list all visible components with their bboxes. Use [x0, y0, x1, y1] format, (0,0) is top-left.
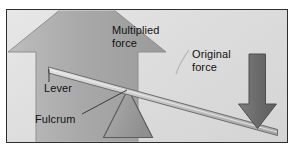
- diagram-screenshot: Multiplied force Original force Lever Fu…: [0, 0, 296, 156]
- original-force-leader-line: [176, 50, 189, 74]
- label-lever: Lever: [44, 82, 72, 95]
- original-force-arrow: [239, 54, 277, 129]
- label-fulcrum: Fulcrum: [35, 113, 75, 126]
- label-multiplied-force: Multiplied force: [112, 24, 159, 49]
- label-original-force: Original force: [192, 48, 231, 73]
